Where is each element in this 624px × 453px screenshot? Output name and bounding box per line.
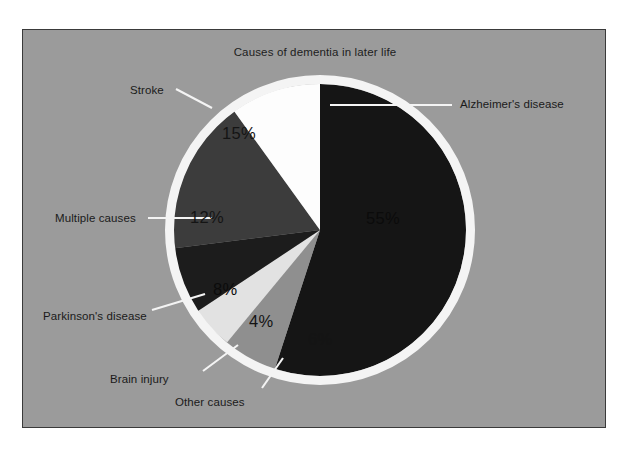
pie-value-label-multiple-causes: 12% <box>190 208 224 227</box>
chart-title: Causes of dementia in later life <box>23 46 607 58</box>
pie-category-label-parkinsons-disease: Parkinson's disease <box>43 310 147 322</box>
chart-panel: Causes of dementia in later life <box>22 29 606 428</box>
pie-value-label-parkinsons-disease: 8% <box>213 280 237 299</box>
pie-category-label-multiple-causes: Multiple causes <box>55 212 136 224</box>
pie-value-label-stroke: 15% <box>222 124 256 143</box>
pie-category-label-brain-injury: Brain injury <box>110 373 169 385</box>
pie-category-label-other-causes: Other causes <box>175 396 245 408</box>
pie-category-label-alzheimers-disease: Alzheimer's disease <box>460 98 564 110</box>
figure-container: Causes of dementia in later life <box>0 0 624 453</box>
pie-value-label-other-causes: 6% <box>308 330 332 349</box>
pie-value-label-brain-injury: 4% <box>249 312 273 331</box>
pie-category-label-stroke: Stroke <box>130 84 164 96</box>
pie-value-label-alzheimers-disease: 55% <box>366 209 400 228</box>
